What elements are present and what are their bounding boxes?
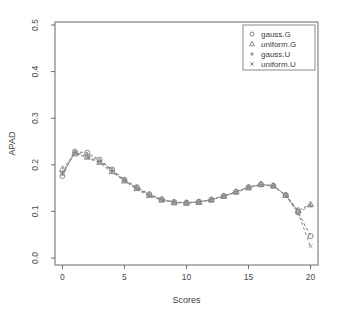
legend-label-gauss.G: gauss.G: [261, 30, 291, 39]
legend-label-uniform.G: uniform.G: [261, 40, 296, 49]
y-tick-label-2: 0.2: [30, 159, 40, 171]
y-tick-label-4: 0.4: [30, 65, 40, 77]
data-series-layer: [59, 149, 313, 248]
x-tick-label-3: 15: [244, 272, 254, 282]
y-tick-label-5: 0.5: [30, 19, 40, 31]
marker-circle: [308, 234, 313, 239]
x-tick-label-1: 5: [122, 272, 127, 282]
x-tick-label-0: 0: [60, 272, 65, 282]
x-tick-label-4: 20: [306, 272, 316, 282]
y-axis-title: APAD: [7, 131, 17, 155]
y-tick-label-3: 0.3: [30, 112, 40, 124]
chart-container: 0.00.10.20.30.40.505101520ScoresAPAD gau…: [0, 0, 342, 320]
apad-vs-scores-line-chart: 0.00.10.20.30.40.505101520ScoresAPAD gau…: [0, 0, 342, 320]
circle-marker: [308, 234, 313, 239]
y-tick-label-1: 0.1: [30, 205, 40, 217]
x-tick-label-2: 10: [182, 272, 192, 282]
x-axis-title: Scores: [172, 295, 201, 305]
chart-legend: gauss.Guniform.Ggauss.Uuniform.U: [243, 25, 315, 70]
legend-label-gauss.U: gauss.U: [261, 50, 291, 59]
legend-label-uniform.U: uniform.U: [261, 60, 296, 69]
y-tick-label-0: 0.0: [30, 252, 40, 264]
